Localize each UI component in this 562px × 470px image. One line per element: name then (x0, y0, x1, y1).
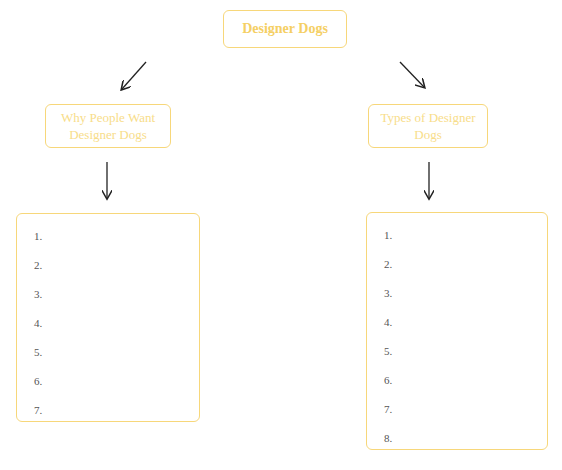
branch-heading-label: Why People Want Designer Dogs (46, 109, 170, 143)
list-item: 8. (384, 432, 392, 444)
list-item: 5. (384, 345, 392, 357)
branch-heading-label: Types of Designer Dogs (369, 109, 487, 143)
branch-heading-why-people-want: Why People Want Designer Dogs (45, 104, 171, 148)
list-item: 1. (34, 230, 42, 242)
arrow-root-to-right (400, 62, 424, 87)
list-box-types: 1.2.3.4.5.6.7.8. (366, 212, 548, 450)
list-item: 1. (384, 229, 392, 241)
list-item: 6. (384, 374, 392, 386)
list-item: 6. (34, 375, 42, 387)
branch-heading-types: Types of Designer Dogs (368, 104, 488, 148)
list-item: 5. (34, 346, 42, 358)
arrow-root-to-left (122, 62, 146, 89)
list-item: 7. (384, 403, 392, 415)
list-item: 2. (384, 258, 392, 270)
list-item: 4. (384, 316, 392, 328)
list-item: 3. (384, 287, 392, 299)
root-node: Designer Dogs (223, 10, 347, 48)
list-item: 3. (34, 288, 42, 300)
list-item: 4. (34, 317, 42, 329)
list-item: 7. (34, 404, 42, 416)
root-label: Designer Dogs (242, 21, 328, 37)
list-box-reasons: 1.2.3.4.5.6.7. (16, 213, 200, 422)
list-item: 2. (34, 259, 42, 271)
